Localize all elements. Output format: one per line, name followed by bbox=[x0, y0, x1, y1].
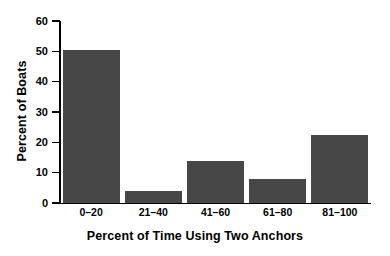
y-axis-tick bbox=[52, 20, 60, 22]
x-axis-tick-label: 81–100 bbox=[309, 207, 371, 218]
y-axis-tick bbox=[52, 111, 60, 113]
bar bbox=[311, 135, 368, 203]
x-axis-tick-label: 41–60 bbox=[184, 207, 246, 218]
bar bbox=[187, 161, 244, 203]
y-axis-tick bbox=[52, 202, 60, 204]
y-axis-tick-label: 0 bbox=[20, 198, 48, 209]
y-axis-tick-label: 10 bbox=[20, 167, 48, 178]
bar-chart: Percent of Boats 0102030405060 0–2021–40… bbox=[0, 0, 390, 256]
y-axis-tick-label: 50 bbox=[20, 46, 48, 57]
y-axis-tick-label: 30 bbox=[20, 107, 48, 118]
y-axis-tick bbox=[52, 142, 60, 144]
y-axis-tick-label: 40 bbox=[20, 76, 48, 87]
plot-area bbox=[60, 21, 371, 203]
y-axis-tick bbox=[52, 172, 60, 174]
y-axis-tick bbox=[52, 51, 60, 53]
y-axis-tick bbox=[52, 81, 60, 83]
x-axis-tick-label: 21–40 bbox=[122, 207, 184, 218]
bar bbox=[63, 50, 120, 203]
y-axis-tick-label: 20 bbox=[20, 137, 48, 148]
y-axis-tick-label: 60 bbox=[20, 16, 48, 27]
x-axis-tick-label: 0–20 bbox=[60, 207, 122, 218]
x-axis-title: Percent of Time Using Two Anchors bbox=[0, 229, 390, 243]
bar bbox=[249, 179, 306, 203]
x-axis-tick-label: 61–80 bbox=[247, 207, 309, 218]
bar bbox=[125, 191, 182, 203]
